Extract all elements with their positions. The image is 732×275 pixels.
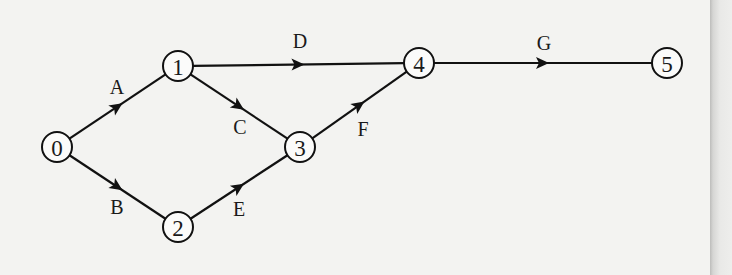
arrow-head-icon — [108, 178, 122, 190]
node-5: 5 — [652, 48, 682, 78]
node-1: 1 — [163, 51, 193, 81]
arrow-head-icon — [230, 98, 244, 110]
node-3: 3 — [285, 132, 315, 162]
edge-label-b: B — [110, 196, 123, 218]
node-label: 1 — [172, 55, 184, 80]
arrow-head-icon — [350, 102, 364, 114]
node-0: 0 — [42, 132, 72, 162]
edge-label-f: F — [357, 118, 368, 140]
edge-label-c: C — [233, 116, 246, 138]
node-2: 2 — [163, 212, 193, 242]
node-label: 4 — [413, 52, 425, 77]
edge-d — [193, 59, 404, 71]
edge-label-e: E — [233, 198, 245, 220]
edge-label-a: A — [110, 76, 125, 98]
node-4: 4 — [404, 48, 434, 78]
edge-label-d: D — [293, 30, 307, 52]
node-label: 3 — [294, 136, 306, 161]
node-label: 2 — [172, 216, 184, 241]
edge-g — [434, 57, 652, 69]
activity-network-diagram: 012345 ABCDEFG — [0, 0, 732, 275]
nodes-layer: 012345 — [42, 48, 682, 242]
node-label: 5 — [661, 52, 673, 77]
arrow-head-icon — [230, 184, 244, 196]
node-label: 0 — [51, 136, 63, 161]
edge-label-g: G — [537, 32, 551, 54]
arrow-head-icon — [108, 103, 122, 115]
